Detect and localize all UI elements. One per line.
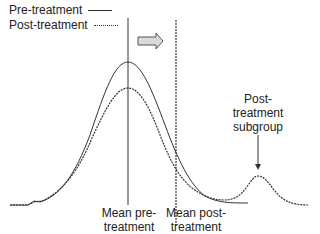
label-line: treatment bbox=[224, 106, 292, 120]
post-treatment-subgroup-label: Post- treatment subgroup bbox=[224, 92, 292, 134]
pre-treatment-curve bbox=[10, 62, 248, 205]
down-arrow-icon bbox=[255, 135, 261, 170]
label-line: treatment bbox=[159, 220, 233, 234]
label-line: treatment bbox=[95, 220, 163, 234]
mean-pre-treatment-label: Mean pre- treatment bbox=[95, 206, 163, 234]
label-line: Mean post- bbox=[159, 206, 233, 220]
label-line: Post- bbox=[224, 92, 292, 106]
right-arrow-icon bbox=[138, 33, 163, 49]
label-line: subgroup bbox=[224, 120, 292, 134]
label-line: Mean pre- bbox=[95, 206, 163, 220]
mean-post-treatment-label: Mean post- treatment bbox=[159, 206, 233, 234]
